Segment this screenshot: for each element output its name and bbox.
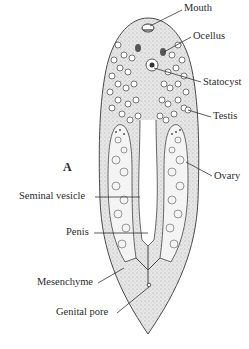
label-mouth: Mouth (184, 3, 212, 14)
genital-pore-structure (147, 283, 151, 287)
panel-letter: A (63, 160, 72, 175)
label-mesenchyme: Mesenchyme (37, 277, 93, 288)
ocellus-right (160, 48, 166, 56)
label-testis: Testis (213, 111, 237, 122)
flatworm-illustration (0, 0, 249, 349)
flatworm-diagram: Mouth Ocellus Statocyst Testis Ovary A S… (0, 0, 249, 349)
label-penis: Penis (66, 227, 89, 238)
ocellus-left (135, 44, 141, 52)
label-genital-pore: Genital pore (56, 307, 108, 318)
seminal-vesicle-structure (139, 120, 158, 246)
label-ovary: Ovary (214, 171, 240, 182)
label-ocellus: Ocellus (193, 31, 225, 42)
label-statocyst: Statocyst (203, 77, 242, 88)
label-seminal-vesicle: Seminal vesicle (19, 191, 85, 202)
